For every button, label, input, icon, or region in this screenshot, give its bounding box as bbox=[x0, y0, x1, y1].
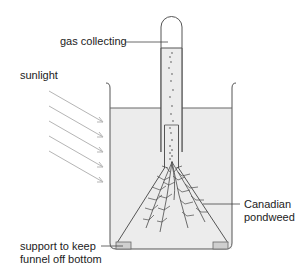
apparatus-diagram: gas collecting sunlight Canadian pondwee… bbox=[0, 0, 306, 274]
label-support-1: support to keep bbox=[20, 240, 96, 253]
label-sunlight: sunlight bbox=[20, 69, 58, 82]
diagram-graphic bbox=[0, 0, 306, 274]
label-pondweed-2: pondweed bbox=[244, 211, 295, 224]
support-right bbox=[213, 242, 228, 249]
label-support-2: funnel off bottom bbox=[20, 253, 102, 266]
label-pondweed-1: Canadian bbox=[244, 198, 291, 211]
sunlight-rays bbox=[49, 91, 103, 182]
label-gas-collecting: gas collecting bbox=[60, 35, 127, 48]
support-left bbox=[116, 242, 131, 249]
